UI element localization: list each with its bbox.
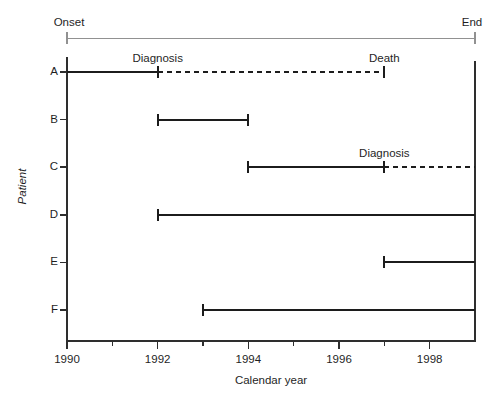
y-axis-patient-tick xyxy=(60,214,67,216)
segment-C-solid xyxy=(248,166,384,168)
x-tick-major xyxy=(248,341,250,349)
x-tick-label: 1990 xyxy=(54,353,80,366)
x-tick-major xyxy=(66,341,68,349)
y-axis-patient-tick xyxy=(60,262,67,264)
event-tick xyxy=(247,114,249,126)
y-axis-patient-tick xyxy=(60,309,67,311)
segment-B-solid xyxy=(158,119,249,121)
x-tick-minor xyxy=(202,341,204,346)
patient-label-C: C xyxy=(44,160,58,173)
x-tick-label: 1992 xyxy=(145,353,171,366)
x-tick-minor xyxy=(384,341,386,346)
patient-label-E: E xyxy=(44,255,58,268)
patient-label-D: D xyxy=(44,208,58,221)
event-tick xyxy=(383,256,385,268)
patient-label-A: A xyxy=(44,65,58,78)
x-tick-minor xyxy=(293,341,295,346)
annotation-diagnosis-C: Diagnosis xyxy=(359,147,410,160)
y-axis-patient-tick xyxy=(60,166,67,168)
patient-label-F: F xyxy=(44,303,58,316)
event-tick xyxy=(202,304,204,316)
event-tick xyxy=(247,161,249,173)
segment-D-solid xyxy=(158,214,475,216)
patient-label-B: B xyxy=(44,113,58,126)
event-tick xyxy=(383,66,385,78)
y-axis-patient-tick xyxy=(60,71,67,73)
x-tick-label: 1996 xyxy=(326,353,352,366)
y-axis-patient-tick xyxy=(60,119,67,121)
annotation-death-A: Death xyxy=(369,52,400,65)
event-tick xyxy=(157,114,159,126)
segment-A-solid xyxy=(67,71,158,73)
x-tick-major xyxy=(157,341,159,349)
x-tick-minor xyxy=(112,341,114,346)
x-tick-major xyxy=(338,341,340,349)
segment-E-solid xyxy=(384,261,475,263)
patient-timeline-figure: Onset End Calendar year Patient 19901992… xyxy=(0,0,496,402)
annotation-diagnosis-A: Diagnosis xyxy=(132,52,183,65)
x-tick-major xyxy=(429,341,431,349)
x-tick-label: 1998 xyxy=(417,353,443,366)
plot-area: 19901992199419961998ADiagnosisDeathBCDia… xyxy=(0,0,496,402)
segment-A-dashed xyxy=(158,71,385,73)
x-tick-label: 1994 xyxy=(236,353,262,366)
event-tick xyxy=(157,209,159,221)
segment-F-solid xyxy=(203,309,475,311)
segment-C-dashed xyxy=(384,166,475,168)
